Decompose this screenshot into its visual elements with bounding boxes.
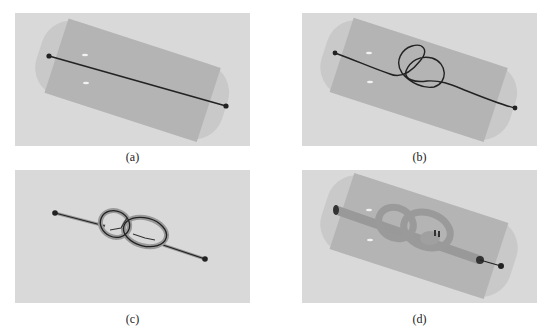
thick-knot-figure	[302, 170, 537, 303]
caption-d: (d)	[302, 312, 537, 327]
panel-b	[302, 13, 537, 146]
caption-b: (b)	[302, 150, 537, 165]
caption-a: (a)	[15, 150, 250, 165]
panel-c	[15, 170, 250, 303]
panel-a	[15, 13, 250, 146]
panel-d	[302, 170, 537, 303]
caption-c: (c)	[15, 312, 250, 327]
loose-knot-figure	[302, 13, 537, 146]
straight-rope-figure	[15, 13, 250, 146]
tight-knot-figure	[15, 170, 250, 303]
